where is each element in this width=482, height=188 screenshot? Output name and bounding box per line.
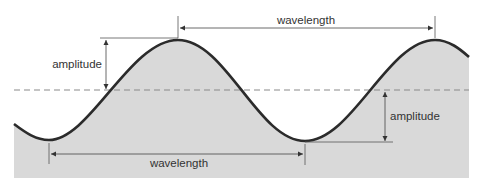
amplitude-right-label: amplitude <box>390 110 440 122</box>
wavelength-top-annotation: wavelength <box>178 14 435 38</box>
wave-diagram: wavelength amplitude amplitude wavelengt… <box>0 0 482 188</box>
wavelength-bottom-label: wavelength <box>149 157 208 169</box>
amplitude-left-label: amplitude <box>52 58 102 70</box>
wavelength-top-label: wavelength <box>276 14 335 26</box>
